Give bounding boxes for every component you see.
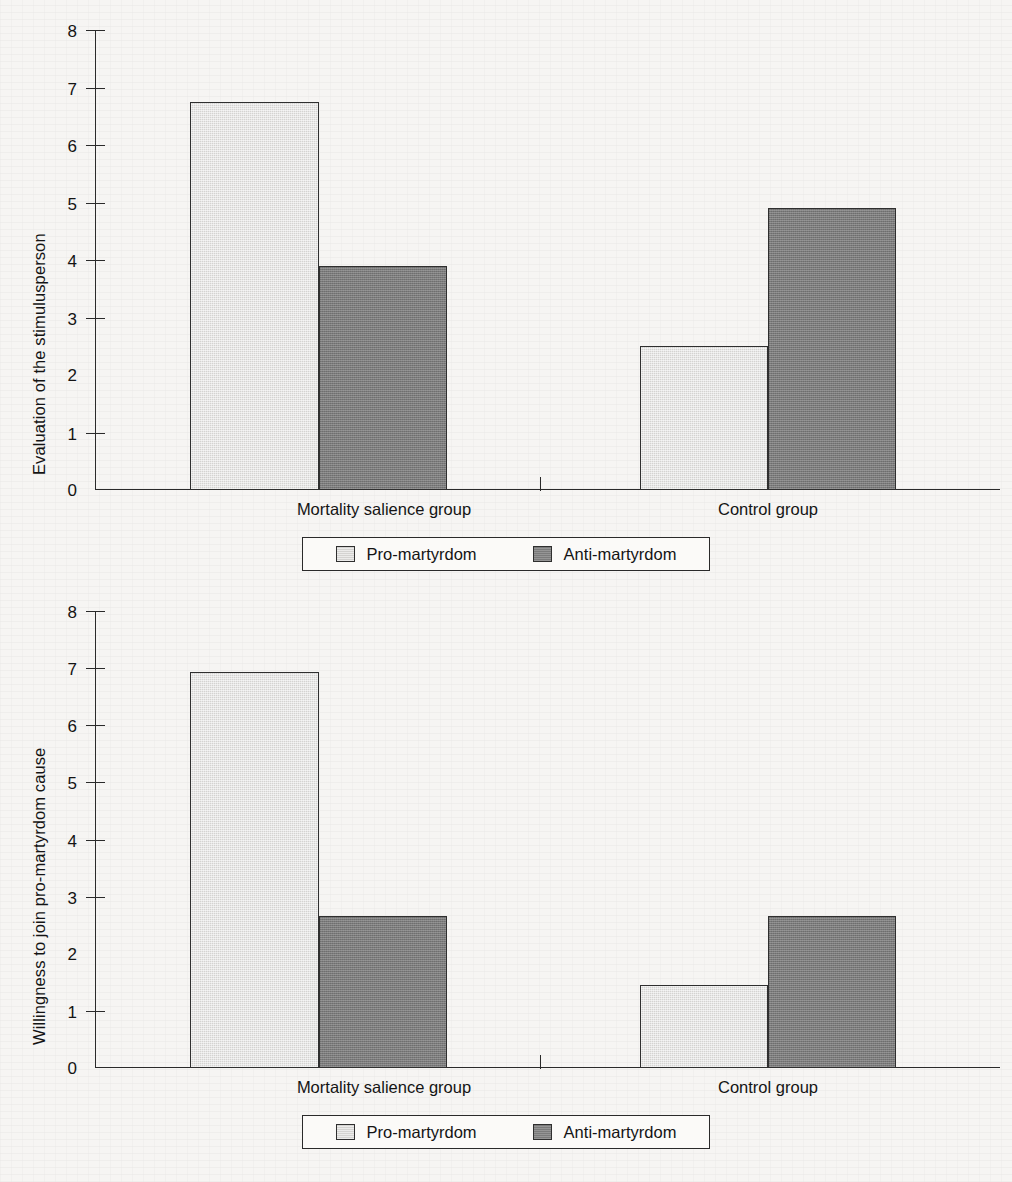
legend-swatch-pro-martyrdom-icon [336,546,355,562]
y-tick-4: 4 [86,840,105,841]
plot-area: 8 7 6 5 4 3 2 1 0 [95,611,1000,1068]
legend-label-pro-martyrdom: Pro-martyrdom [367,545,477,564]
legend: Pro-martyrdom Anti-martyrdom [302,537,710,571]
y-tick-5: 5 [86,203,105,204]
x-category-control: Control group [718,1078,818,1097]
bar-mortality-pro-martyrdom [190,102,319,490]
y-tick-7: 7 [86,88,105,89]
y-tick-3: 3 [86,897,105,898]
legend-label-pro-martyrdom: Pro-martyrdom [367,1123,477,1142]
legend-label-anti-martyrdom: Anti-martyrdom [564,545,677,564]
y-tick-4: 4 [86,260,105,261]
y-axis-label: Willingness to join pro-martyrdom cause [30,748,49,1045]
y-tick-8: 8 [86,30,105,31]
x-axis-group-separator [540,1055,541,1069]
y-tick-8: 8 [86,611,105,612]
legend-entry-anti-martyrdom[interactable]: Anti-martyrdom [533,1123,677,1142]
legend-swatch-anti-martyrdom-icon [533,1124,552,1140]
x-axis-group-separator [540,477,541,491]
legend-swatch-anti-martyrdom-icon [533,546,552,562]
chart-panel-willingness: Willingness to join pro-martyrdom cause … [0,580,1012,1182]
legend-label-anti-martyrdom: Anti-martyrdom [564,1123,677,1142]
bar-mortality-anti-martyrdom [319,916,447,1069]
x-category-control: Control group [718,500,818,519]
y-tick-7: 7 [86,668,105,669]
chart-panel-evaluation: Evaluation of the stimulusperson 8 7 6 5… [0,0,1012,590]
legend-entry-anti-martyrdom[interactable]: Anti-martyrdom [533,545,677,564]
y-tick-6: 6 [86,725,105,726]
bar-control-pro-martyrdom [640,985,768,1068]
bar-mortality-pro-martyrdom [190,672,319,1068]
x-category-mortality-salience: Mortality salience group [297,500,471,519]
bar-control-anti-martyrdom [768,916,896,1069]
y-tick-5: 5 [86,782,105,783]
y-tick-1: 1 [86,433,105,434]
y-tick-1: 1 [86,1011,105,1012]
x-category-mortality-salience: Mortality salience group [297,1078,471,1097]
legend: Pro-martyrdom Anti-martyrdom [302,1115,710,1149]
plot-area: 8 7 6 5 4 3 2 1 0 [95,30,1000,490]
legend-entry-pro-martyrdom[interactable]: Pro-martyrdom [336,545,477,564]
bar-mortality-anti-martyrdom [319,266,447,490]
y-axis-label: Evaluation of the stimulusperson [30,233,49,475]
legend-swatch-pro-martyrdom-icon [336,1124,355,1140]
bar-control-pro-martyrdom [640,346,768,490]
figure-page: Evaluation of the stimulusperson 8 7 6 5… [0,0,1012,1182]
y-tick-3: 3 [86,318,105,319]
bar-control-anti-martyrdom [768,208,896,490]
y-tick-6: 6 [86,145,105,146]
legend-entry-pro-martyrdom[interactable]: Pro-martyrdom [336,1123,477,1142]
